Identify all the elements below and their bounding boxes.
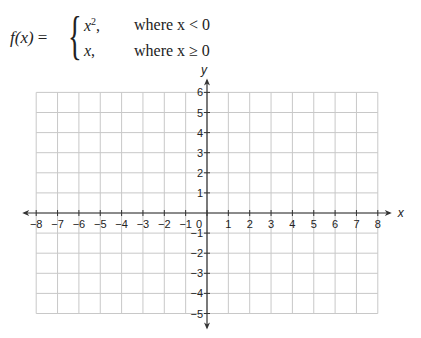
x-tick-label: −7 xyxy=(51,218,64,230)
y-tick-label: 4 xyxy=(197,127,203,139)
x-tick-label: 2 xyxy=(247,218,253,230)
x-tick-label: 4 xyxy=(289,218,295,230)
y-tick-label: −4 xyxy=(190,287,203,299)
x-axis-label: x xyxy=(397,206,405,220)
y-axis-label: y xyxy=(200,63,208,77)
y-tick-label: −2 xyxy=(190,247,203,259)
x-tick-label: 3 xyxy=(268,218,274,230)
x-tick-label: −4 xyxy=(115,218,128,230)
x-tick-label: −8 xyxy=(30,218,43,230)
x-tick-label: 5 xyxy=(311,218,317,230)
x-tick-label: −3 xyxy=(137,218,150,230)
x-tick-label: −6 xyxy=(73,218,86,230)
x-tick-label: 7 xyxy=(353,218,359,230)
x-tick-label: 1 xyxy=(225,218,231,230)
y-tick-label: −3 xyxy=(190,267,203,279)
x-tick-label: −2 xyxy=(158,218,171,230)
x-tick-label: 6 xyxy=(332,218,338,230)
coordinate-grid: −8−7−6−5−4−3−2−1012345678654321−1−2−3−4−… xyxy=(0,0,421,338)
y-tick-label: 6 xyxy=(197,86,203,98)
y-tick-label: 5 xyxy=(197,107,203,119)
y-tick-label: 1 xyxy=(197,187,203,199)
y-tick-label: −5 xyxy=(190,308,203,320)
y-tick-label: 2 xyxy=(197,167,203,179)
x-tick-label: −5 xyxy=(94,218,107,230)
y-tick-label: −1 xyxy=(190,227,203,239)
x-tick-label: 8 xyxy=(375,218,381,230)
y-tick-label: 3 xyxy=(197,147,203,159)
